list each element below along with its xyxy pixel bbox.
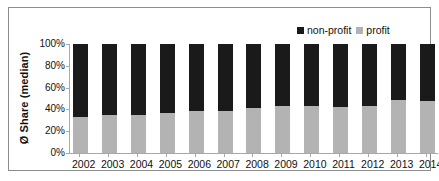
y-axis-tick-mark [66, 88, 70, 89]
x-axis-tick-mark [217, 153, 232, 157]
x-axis-tick-mark [332, 153, 347, 157]
bar-column [275, 44, 290, 153]
chart-legend: non-profit profit [297, 23, 390, 37]
x-axis-tick-mark [245, 153, 260, 157]
bar-segment-non-profit [246, 44, 261, 108]
bar-column [160, 44, 175, 153]
x-axis-tick-label: 2009 [274, 158, 289, 172]
y-axis-tick-label: 80% [45, 61, 65, 71]
bar-column [333, 44, 348, 153]
bar-column [362, 44, 377, 153]
bar-segment-profit [102, 115, 117, 153]
x-axis-tick-label: 2010 [303, 158, 318, 172]
legend-swatch-non-profit-icon [297, 27, 304, 34]
bar-segment-non-profit [391, 44, 406, 100]
bar-segment-non-profit [160, 44, 175, 113]
bar-segment-profit [218, 111, 233, 154]
x-axis-tick-mark [303, 153, 318, 157]
bar-segment-profit [420, 101, 435, 153]
x-axis-tick-mark [188, 153, 203, 157]
bar-segment-profit [246, 108, 261, 153]
bar-segment-non-profit [102, 44, 117, 115]
x-axis-tick-mark [274, 153, 289, 157]
x-axis-tick-label: 2006 [188, 158, 203, 172]
legend-entry-non-profit: non-profit [297, 25, 351, 36]
y-axis-tick-labels: 100%80%60%40%20%0% [31, 39, 67, 159]
bar-segment-profit [73, 117, 88, 153]
y-axis-tick-label: 40% [45, 104, 65, 114]
bar-segment-non-profit [218, 44, 233, 110]
x-axis-tick-labels: 2002200320042005200620072008200920102011… [69, 158, 437, 172]
x-axis-tick-label: 2005 [159, 158, 174, 172]
plot-area [69, 44, 438, 154]
legend-entry-profit: profit [356, 25, 389, 36]
x-axis-tick-mark [130, 153, 145, 157]
x-axis-tick-label: 2012 [361, 158, 376, 172]
bar-segment-non-profit [275, 44, 290, 106]
x-axis-tick-mark [390, 153, 405, 157]
bar-column [391, 44, 406, 153]
x-axis-tick-label: 2008 [245, 158, 260, 172]
y-axis-tick-mark [66, 109, 70, 110]
bar-segment-non-profit [362, 44, 377, 106]
y-axis-tick-label: 60% [45, 83, 65, 93]
bar-segment-profit [304, 106, 319, 153]
bar-column [131, 44, 146, 153]
bar-column [304, 44, 319, 153]
bar-column [73, 44, 88, 153]
y-axis-tick-label: 0% [51, 148, 65, 158]
x-axis-tick-label: 2007 [217, 158, 232, 172]
x-axis-tick-mark [72, 153, 87, 157]
x-axis-tick-mark [159, 153, 174, 157]
bar-column [102, 44, 117, 153]
bar-segment-profit [160, 113, 175, 153]
chart-frame: non-profit profit Ø Share (median) 100%8… [8, 7, 431, 171]
bar-segment-non-profit [189, 44, 204, 110]
x-axis-tick-mark [419, 153, 434, 157]
bar-segment-non-profit [304, 44, 319, 106]
x-axis-tick-label: 2003 [101, 158, 116, 172]
bar-segment-profit [275, 106, 290, 153]
x-axis-tick-mark [361, 153, 376, 157]
x-axis-tick-label: 2002 [72, 158, 87, 172]
y-axis-tick-mark [66, 66, 70, 67]
bar-segment-non-profit [333, 44, 348, 107]
bar-group [70, 44, 438, 153]
bar-segment-non-profit [131, 44, 146, 115]
y-axis-tick-label: 20% [45, 126, 65, 136]
x-axis-tick-label: 2014 [419, 158, 434, 172]
y-axis-title-text: Ø Share (median) [18, 52, 30, 145]
y-axis-tick-mark [66, 131, 70, 132]
bar-column [246, 44, 261, 153]
y-axis-title: Ø Share (median) [16, 42, 32, 154]
legend-label-profit: profit [366, 25, 389, 36]
bar-column [420, 44, 435, 153]
chart-figure: non-profit profit Ø Share (median) 100%8… [0, 0, 439, 181]
bar-segment-profit [391, 100, 406, 153]
x-axis-tick-marks [69, 153, 437, 157]
x-axis-tick-label: 2013 [390, 158, 405, 172]
bar-segment-profit [333, 107, 348, 153]
x-axis-tick-mark [101, 153, 116, 157]
bar-segment-profit [189, 111, 204, 154]
x-axis-tick-label: 2004 [130, 158, 145, 172]
bar-segment-profit [362, 106, 377, 153]
y-axis-tick-label: 100% [39, 39, 65, 49]
bar-column [218, 44, 233, 153]
legend-label-non-profit: non-profit [307, 25, 351, 36]
bar-segment-non-profit [73, 44, 88, 117]
legend-swatch-profit-icon [356, 27, 363, 34]
bar-segment-non-profit [420, 44, 435, 101]
y-axis-tick-mark [66, 44, 70, 45]
x-axis-tick-label: 2011 [332, 158, 347, 172]
bar-column [189, 44, 204, 153]
bar-segment-profit [131, 115, 146, 153]
